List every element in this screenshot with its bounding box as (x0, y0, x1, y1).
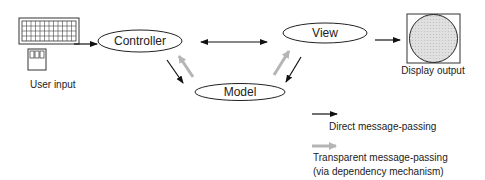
arrow-model-to-view-transparent (274, 51, 289, 75)
mvc-diagram: User input Controller View Display outpu… (0, 0, 485, 180)
view-node: View (283, 23, 367, 43)
legend: Direct message-passing Transparent messa… (312, 114, 448, 177)
user-input-label: User input (30, 79, 76, 90)
model-label: Model (224, 85, 257, 99)
legend-transparent-sublabel: (via dependency mechanism) (313, 166, 444, 177)
arrow-model-to-controller-transparent (179, 56, 193, 77)
legend-transparent-label: Transparent message-passing (313, 152, 448, 163)
keyboard-icon (19, 18, 79, 44)
display-screen-icon (407, 14, 460, 63)
display-output-label: Display output (401, 65, 465, 76)
legend-direct-label: Direct message-passing (329, 121, 436, 132)
controller-node: Controller (98, 30, 182, 52)
arrow-controller-to-model (167, 60, 183, 83)
controller-label: Controller (114, 34, 166, 48)
arrow-view-to-model (286, 57, 301, 82)
mouse-icon (28, 49, 46, 70)
model-node: Model (195, 84, 285, 101)
view-label: View (312, 26, 338, 40)
